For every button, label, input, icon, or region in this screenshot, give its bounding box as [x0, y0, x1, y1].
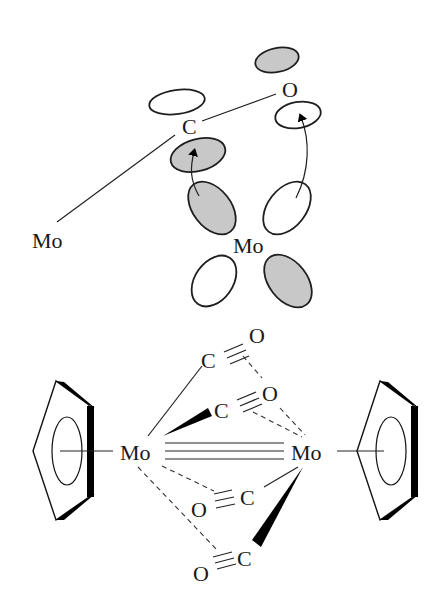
mo-mo-triple-bond [165, 443, 284, 459]
co1-o-mo-dashed-interaction [243, 356, 262, 378]
co3-triple-bond [214, 490, 235, 508]
mo-c1-bond-line [148, 366, 202, 436]
orbital-diagram-svg: Mo C O Mo [0, 0, 442, 614]
label-co2-oxygen: O [262, 381, 278, 406]
mo-d-lobe-upper-right-open [254, 173, 321, 244]
co2-triple-bond [237, 392, 262, 412]
label-mo-left: Mo [32, 228, 63, 253]
top-panel: Mo C O Mo [32, 44, 323, 317]
co3-c-mo-dashed-interaction [162, 466, 214, 491]
mo-c2-wedge-bond [163, 408, 212, 436]
cp-ring-left-icon [33, 381, 113, 520]
cp-ring-right-icon [337, 381, 419, 520]
label-co2-carbon: C [214, 398, 229, 423]
co4-triple-bond [213, 552, 236, 569]
c-pi-orbital-lower-shaded [167, 132, 229, 177]
o-pi-orbital-lower-open [273, 98, 323, 132]
label-co1-oxygen: O [249, 323, 265, 348]
label-mo-center: Mo [233, 233, 264, 258]
c-o-bond-line [202, 94, 276, 121]
figure-canvas: Mo C O Mo [0, 0, 442, 614]
co2-o-mo-dashed-interaction [280, 408, 305, 435]
label-co4-oxygen: O [193, 561, 209, 586]
label-mo-right: Mo [291, 440, 322, 465]
label-co3-carbon: C [240, 485, 255, 510]
label-carbon: C [182, 114, 197, 139]
mo-c-bond-line [57, 135, 175, 222]
bottom-panel: Mo Mo C O C O C O C O [33, 323, 419, 586]
label-mo-left: Mo [120, 440, 151, 465]
label-oxygen: O [282, 77, 298, 102]
label-co3-oxygen: O [191, 497, 207, 522]
label-co1-carbon: C [201, 348, 216, 373]
co1-triple-bond [224, 344, 249, 364]
mo-d-lobe-lower-right-shaded [255, 246, 322, 317]
c-pi-orbital-upper-open [148, 86, 207, 118]
o-pi-orbital-upper-shaded [253, 44, 301, 77]
label-co4-carbon: C [237, 546, 252, 571]
